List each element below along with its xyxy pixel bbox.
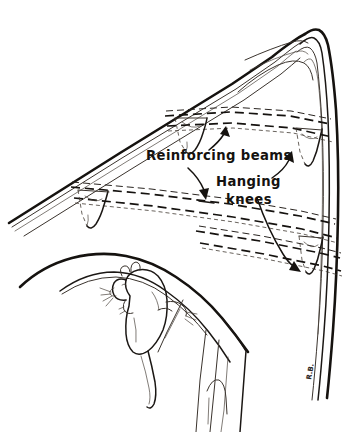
- label-reinforcing-beams: Reinforcing beams: [146, 148, 292, 163]
- label-hanging-knees-line2: knees: [226, 192, 272, 207]
- hull-drawing: Reinforcing beams Hanging knees: [0, 0, 346, 432]
- label-hanging-knees-line1: Hanging: [216, 174, 281, 189]
- illustration-canvas: Reinforcing beams Hanging knees: [0, 0, 346, 432]
- paper-background: [0, 0, 346, 432]
